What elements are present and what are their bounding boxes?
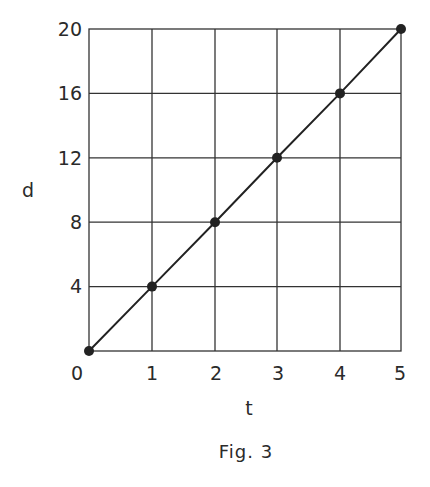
x-tick: 0 (71, 362, 83, 384)
chart: 20 16 12 8 4 0 1 2 3 4 5 d t Fig. 3 (0, 0, 430, 487)
y-tick-labels: 20 16 12 8 4 (58, 18, 82, 297)
x-tick: 5 (394, 362, 406, 384)
figure-caption: Fig. 3 (219, 441, 273, 462)
x-tick: 1 (146, 362, 158, 384)
x-tick-labels: 0 1 2 3 4 5 (71, 362, 406, 384)
data-line (89, 29, 401, 351)
y-tick: 8 (70, 211, 82, 233)
x-axis-label: t (245, 397, 252, 419)
y-axis-label: d (22, 179, 34, 201)
x-tick: 3 (272, 362, 284, 384)
y-tick: 12 (58, 147, 82, 169)
y-tick: 16 (58, 82, 82, 104)
y-tick: 20 (58, 18, 82, 40)
y-tick: 4 (70, 275, 82, 297)
x-tick: 2 (210, 362, 222, 384)
x-tick: 4 (334, 362, 346, 384)
